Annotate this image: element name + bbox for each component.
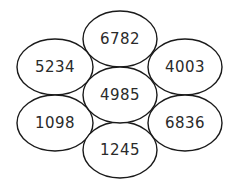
label-lower-right: 6836 (145, 114, 225, 132)
label-upper-left: 5234 (15, 58, 95, 76)
label-top: 6782 (80, 30, 160, 48)
label-center: 4985 (80, 86, 160, 104)
label-upper-right: 4003 (145, 58, 225, 76)
label-lower-left: 1098 (15, 114, 95, 132)
label-bottom: 1245 (80, 141, 160, 159)
